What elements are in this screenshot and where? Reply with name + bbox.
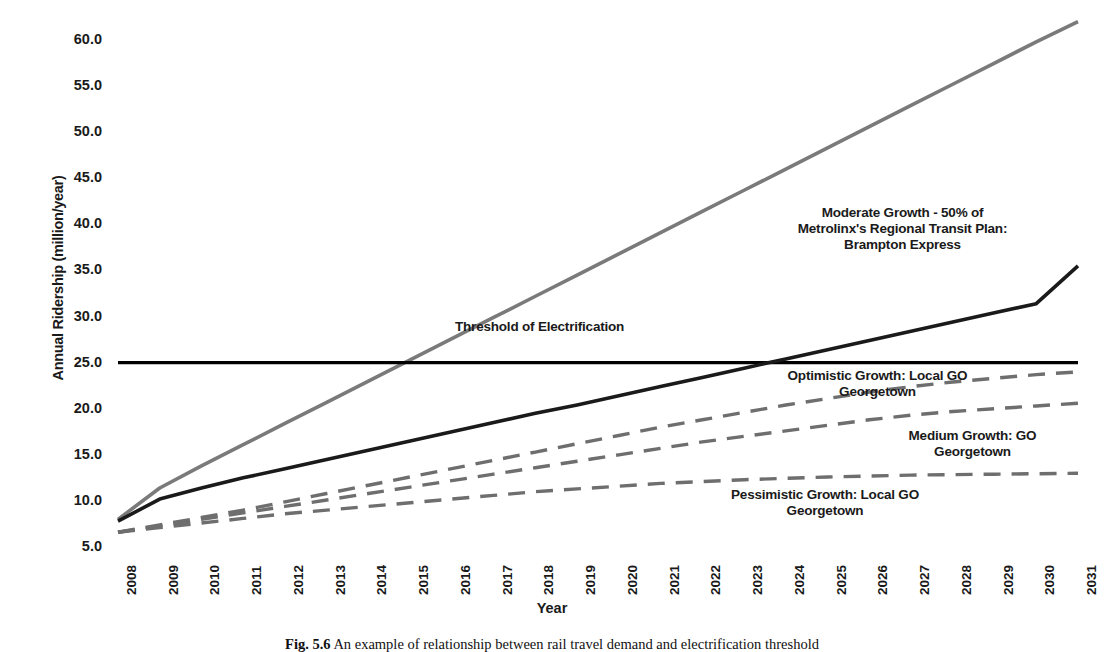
- annotation-pessimistic-growth: Pessimistic Growth: Local GO Georgetown: [710, 487, 940, 519]
- x-tick-label: 2022: [708, 565, 723, 595]
- x-tick-label: 2030: [1042, 565, 1057, 595]
- x-tick-label: 2027: [917, 565, 932, 595]
- x-tick-label: 2014: [374, 565, 389, 595]
- x-tick-label: 2028: [959, 565, 974, 595]
- x-tick-label: 2011: [249, 566, 264, 595]
- annotation-moderate-growth: Moderate Growth - 50% of Metrolinx's Reg…: [795, 205, 1010, 253]
- y-tick-label: 50.0: [48, 123, 102, 139]
- y-tick-label: 10.0: [48, 492, 102, 508]
- y-tick-label: 60.0: [48, 31, 102, 47]
- x-tick-label: 2031: [1084, 565, 1099, 595]
- x-tick-label: 2029: [1001, 565, 1016, 595]
- y-tick-label: 35.0: [48, 261, 102, 277]
- figure-caption: Fig. 5.6 An example of relationship betw…: [0, 636, 1104, 652]
- y-tick-label: 25.0: [48, 354, 102, 370]
- caption-prefix: Fig. 5.6: [285, 636, 331, 652]
- annotation-optimistic-growth: Optimistic Growth: Local GO Georgetown: [775, 368, 980, 400]
- annotation-medium-growth: Medium Growth: GO Georgetown: [880, 428, 1065, 460]
- x-tick-label: 2017: [500, 565, 515, 595]
- y-tick-label: 15.0: [48, 446, 102, 462]
- x-axis-label: Year: [0, 600, 1104, 616]
- x-tick-label: 2019: [583, 565, 598, 595]
- y-tick-label: 5.0: [48, 538, 102, 554]
- x-tick-label: 2015: [416, 565, 431, 595]
- y-tick-label: 55.0: [48, 77, 102, 93]
- x-tick-label: 2021: [667, 565, 682, 595]
- x-tick-label: 2018: [541, 565, 556, 595]
- x-tick-label: 2013: [333, 565, 348, 595]
- y-tick-label: 40.0: [48, 215, 102, 231]
- y-tick-label: 45.0: [48, 169, 102, 185]
- x-tick-label: 2016: [458, 565, 473, 595]
- x-tick-label: 2009: [166, 565, 181, 595]
- y-tick-label: 20.0: [48, 400, 102, 416]
- y-tick-label: 30.0: [48, 308, 102, 324]
- x-tick-label: 2023: [750, 565, 765, 595]
- x-tick-label: 2012: [291, 565, 306, 595]
- x-tick-label: 2025: [834, 565, 849, 595]
- x-tick-label: 2008: [124, 565, 139, 595]
- caption-text: An example of relationship between rail …: [333, 636, 819, 652]
- x-tick-label: 2020: [625, 565, 640, 595]
- x-tick-label: 2024: [792, 565, 807, 595]
- x-tick-label: 2026: [875, 565, 890, 595]
- annotation-threshold: Threshold of Electrification: [455, 319, 655, 335]
- figure-container: Annual Ridership (million/year) 60.055.0…: [0, 0, 1104, 652]
- x-tick-label: 2010: [207, 565, 222, 595]
